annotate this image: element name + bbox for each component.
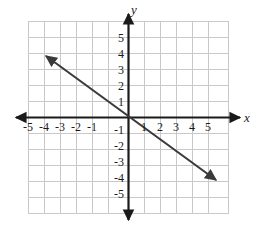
y-axis-label: y bbox=[131, 3, 137, 16]
y-tick-label: -5 bbox=[106, 188, 124, 200]
coordinate-plane-graph: -5 -4 -3 -2 -1 1 2 3 4 5 5 4 3 2 1 -1 -2… bbox=[0, 0, 260, 232]
x-tick-label: 5 bbox=[199, 121, 217, 133]
graph-canvas bbox=[0, 0, 260, 232]
y-tick-label: -2 bbox=[106, 140, 124, 152]
y-tick-label: -1 bbox=[106, 124, 124, 136]
x-tick-label: -1 bbox=[83, 121, 101, 133]
y-tick-label: 2 bbox=[106, 80, 124, 92]
y-tick-label: -4 bbox=[106, 172, 124, 184]
y-tick-label: 4 bbox=[106, 48, 124, 60]
y-tick-label: 3 bbox=[106, 64, 124, 76]
y-tick-label: -3 bbox=[106, 156, 124, 168]
x-axis-label: x bbox=[244, 111, 250, 124]
y-tick-label: 5 bbox=[106, 32, 124, 44]
y-tick-label: 1 bbox=[106, 96, 124, 108]
